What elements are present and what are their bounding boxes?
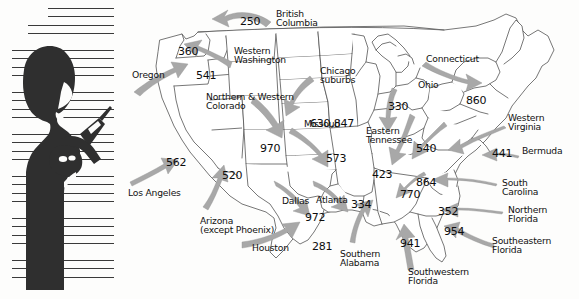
areacode-562: 562 — [166, 157, 186, 168]
areacode-770: 770 — [400, 189, 420, 200]
areacode-541: 541 — [196, 70, 216, 81]
region-connecticut: Connecticut — [426, 54, 479, 63]
areacode-334: 334 — [351, 199, 371, 210]
areacode-520: 520 — [222, 170, 242, 181]
region-ohio: Ohio — [418, 80, 438, 89]
region-british-columbia: British Columbia — [276, 9, 318, 28]
region-southern-alabama: Southern Alabama — [340, 249, 380, 268]
areacode-573: 573 — [326, 153, 346, 164]
region-southwestern-florida: Southwestern Florida — [408, 267, 469, 286]
silhouette-panel — [0, 0, 124, 299]
areacode-860: 860 — [466, 95, 486, 106]
region-western-washington: Western Washington — [234, 46, 286, 65]
areacode-281: 281 — [312, 241, 332, 252]
region-dallas: Dallas — [282, 196, 309, 205]
areacode-250: 250 — [240, 16, 260, 27]
region-bermuda: Bermuda — [522, 146, 562, 155]
areacode-972: 972 — [305, 212, 325, 223]
person-with-phone-silhouette — [6, 46, 118, 299]
region-northern-florida: Northern Florida — [508, 205, 547, 224]
areacode-954: 954 — [444, 226, 464, 237]
region-missouri: Missouri — [304, 119, 340, 128]
areacode-330: 330 — [388, 101, 408, 112]
areacode-423: 423 — [372, 169, 392, 180]
areacode-970: 970 — [260, 143, 280, 154]
region-eastern-tennessee: Eastern Tennessee — [366, 126, 412, 145]
region-arizona: Arizona (except Phoenix) — [200, 216, 274, 235]
areacode-360: 360 — [178, 46, 198, 57]
region-oregon: Oregon — [132, 70, 165, 79]
areacode-352: 352 — [438, 206, 458, 217]
region-south-carolina: South Carolina — [502, 178, 538, 197]
region-atlanta: Atlanta — [316, 195, 348, 204]
region-western-virginia: Western Virginia — [508, 113, 544, 132]
region-southeastern-florida: Southeastern Florida — [492, 236, 551, 255]
region-los-angeles: Los Angeles — [128, 188, 181, 197]
areacode-864: 864 — [416, 177, 436, 188]
areacode-941: 941 — [400, 238, 420, 249]
areacode-540: 540 — [416, 143, 436, 154]
areacode-441: 441 — [492, 148, 512, 159]
region-northern-western-colorado: Northern & Western Colorado — [206, 92, 294, 111]
region-houston: Houston — [252, 243, 289, 252]
region-chicago-suburbs: Chicago suburbs — [320, 66, 356, 85]
us-area-code-map: .state{fill:#ffffff;stroke:#4a4a4a;strok… — [124, 0, 579, 299]
illustration-page: .state{fill:#ffffff;stroke:#4a4a4a;strok… — [0, 0, 579, 299]
